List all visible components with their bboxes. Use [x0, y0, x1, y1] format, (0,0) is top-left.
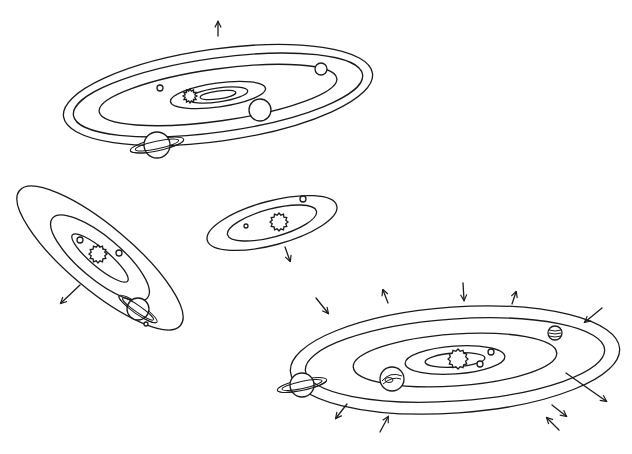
orbit-ring [96, 53, 341, 138]
planet-tiny [77, 237, 83, 243]
planet-storm [380, 367, 404, 391]
planet-tiny [116, 250, 122, 256]
planet-ringed [276, 373, 328, 397]
motion-arrow-icon [285, 247, 290, 261]
motion-arrow-icon [380, 417, 388, 432]
motion-arrow-icon [383, 290, 388, 303]
sun-icon [270, 213, 288, 231]
planet-moon [144, 322, 148, 326]
planetary-systems [0, 22, 623, 432]
orbits [57, 28, 379, 163]
planet-tiny [244, 224, 248, 228]
orbit-ring [68, 38, 367, 152]
motion-arrow-icon [585, 308, 602, 322]
top-system [57, 22, 379, 162]
sun-icon [89, 245, 107, 263]
solar-systems-diagram [0, 0, 632, 454]
motion-arrow-icon [512, 292, 516, 304]
planet-tiny [488, 349, 494, 355]
motion-arrow-icon [61, 285, 80, 303]
planet-small [315, 63, 327, 75]
motion-arrow-icon [552, 405, 566, 416]
planet-tiny [477, 361, 483, 367]
planet-banded [548, 326, 562, 340]
left-system [0, 166, 201, 350]
planet-medium [249, 99, 271, 121]
motion-arrow-icon [566, 373, 606, 401]
motion-arrow-icon [547, 418, 559, 430]
planet-tiny [157, 85, 163, 91]
middle-system [202, 184, 343, 261]
motion-arrow-icon [316, 298, 328, 313]
orbit-ring [57, 28, 379, 163]
motion-arrow-icon [463, 283, 464, 300]
planet-tiny [300, 196, 306, 202]
bottom-system [276, 283, 623, 432]
